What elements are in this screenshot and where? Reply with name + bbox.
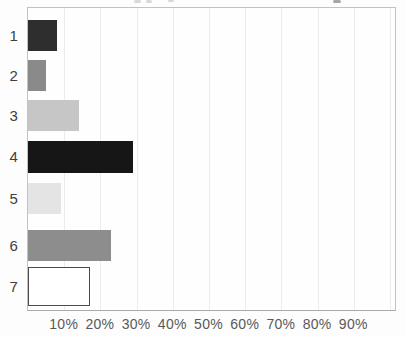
gridline-40pct (173, 8, 174, 310)
x-axis-tick-20pct: 20% (85, 316, 114, 332)
y-axis-label-4: 4 (3, 148, 25, 165)
y-axis-label-5: 5 (3, 189, 25, 206)
bar-category-4 (28, 141, 133, 173)
y-axis-label-1: 1 (3, 26, 25, 43)
x-axis-tick-50pct: 50% (194, 316, 223, 332)
y-axis-label-3: 3 (3, 106, 25, 123)
bar-category-7 (28, 267, 90, 306)
gridline-100pct (390, 8, 391, 310)
bar-chart-figure: 1234567 10%20%30%40%50%60%70%80%90% (0, 0, 405, 337)
gridline-90pct (354, 8, 355, 310)
plot-area (27, 7, 396, 311)
gridline-80pct (318, 8, 319, 310)
gridline-70pct (281, 8, 282, 310)
y-axis-label-2: 2 (3, 66, 25, 83)
x-axis-tick-70pct: 70% (266, 316, 295, 332)
cropped-glyph-fragment (134, 0, 141, 3)
gridline-50pct (209, 8, 210, 310)
x-axis-tick-40pct: 40% (158, 316, 187, 332)
cropped-glyph-fragment (146, 0, 152, 3)
y-axis-label-7: 7 (3, 277, 25, 294)
x-axis-tick-30pct: 30% (122, 316, 151, 332)
bar-category-2 (28, 60, 46, 91)
x-axis-tick-80pct: 80% (303, 316, 332, 332)
y-axis-label-6: 6 (3, 236, 25, 253)
bar-category-6 (28, 230, 111, 261)
x-axis-tick-60pct: 60% (230, 316, 259, 332)
bar-category-1 (28, 20, 57, 51)
cropped-glyph-fragment (168, 0, 174, 2)
x-axis-tick-10pct: 10% (49, 316, 78, 332)
bar-category-3 (28, 100, 79, 131)
gridline-60pct (245, 8, 246, 310)
gridline-30pct (137, 8, 138, 310)
bar-category-5 (28, 183, 61, 214)
x-axis-tick-90pct: 90% (339, 316, 368, 332)
cropped-glyph-fragment (333, 0, 341, 3)
